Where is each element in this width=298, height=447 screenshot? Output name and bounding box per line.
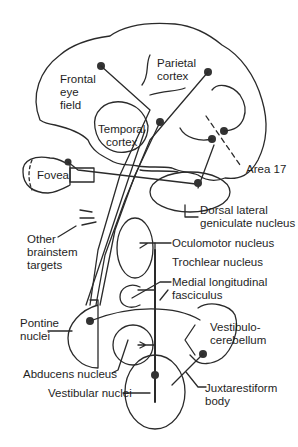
label-frontal-eye-field: Frontal eye field [60,73,96,112]
juxtarestiform-leader [186,372,206,387]
label-vestibular-nuclei: Vestibular nuclei [48,387,132,400]
trochlear-nucleus [120,285,140,307]
eye-movement-pathway-diagram: Frontal eye field Parietal cortex Tempor… [0,0,298,447]
parietal-tract [96,72,208,305]
lgn-label-leader [185,205,198,217]
label-medial-longitudinal-fasciculus: Medial longitudinal fasciculus [172,276,267,302]
oculomotor-nucleus [117,218,153,278]
label-juxtarestiform-body: Juxtarestiform body [205,382,277,408]
pontine-nuclei [68,300,98,368]
label-fovea: Fovea [37,169,69,182]
area17-loop-2 [180,128,212,140]
brainstem-branches [80,210,96,225]
vestibular-node [151,371,159,379]
central-sulcus [142,55,150,85]
label-pontine-nuclei: Pontine nuclei [20,317,59,343]
juxtarestiform-tract [172,354,203,385]
label-vestibulocerebellum: Vestibulo- cerebellum [210,321,266,347]
label-temporal-cortex: Temporal cortex [98,123,145,149]
label-parietal-cortex: Parietal cortex [157,57,196,83]
lateral-sulcus [150,88,185,95]
label-dorsal-lateral-geniculate-nucleus: Dorsal lateral geniculate nucleus [200,204,295,230]
area17-loop-1 [212,85,245,131]
lgn-node [194,179,202,187]
retina-dashed [29,160,32,190]
pontocerebellar-tract [90,309,200,321]
label-oculomotor-nucleus: Oculomotor nucleus [172,237,274,250]
mlf-leader [160,290,168,300]
cortex-fold [140,170,178,172]
label-other-brainstem-targets: Other brainstem targets [27,233,78,272]
label-trochlear-nucleus: Trochlear nucleus [172,256,263,269]
label-abducens-nucleus: Abducens nucleus [23,368,117,381]
label-area-17: Area 17 [246,163,286,176]
